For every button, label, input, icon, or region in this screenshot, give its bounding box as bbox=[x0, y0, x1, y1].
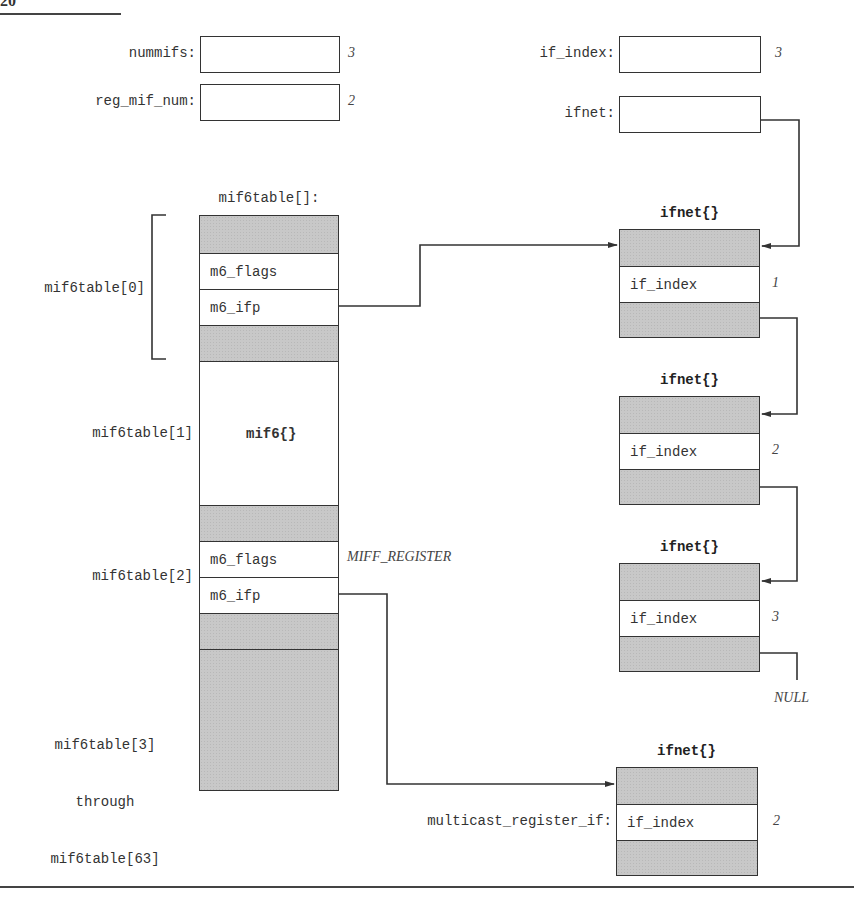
mif6table-0-bracket bbox=[152, 215, 166, 359]
mif6-0-ifp-pointer bbox=[339, 245, 617, 306]
ifnet-head-pointer bbox=[761, 120, 799, 246]
connector-lines bbox=[0, 0, 854, 914]
footer-rule bbox=[0, 886, 854, 888]
mif6-2-ifp-pointer bbox=[339, 594, 614, 784]
ifnet-2-next-pointer bbox=[760, 487, 797, 581]
ifnet-1-next-pointer bbox=[760, 318, 797, 414]
ifnet-3-null-pointer bbox=[760, 653, 797, 680]
